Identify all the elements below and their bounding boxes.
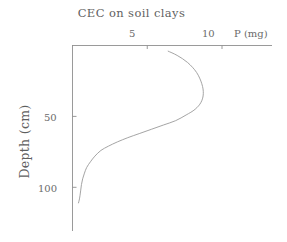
- chart-figure: CEC on soil clays 5 10 P (mg) 50 100 Dep…: [0, 0, 287, 242]
- x-axis-ticks: [147, 46, 222, 50]
- plot-area: [0, 0, 287, 242]
- data-series-line: [78, 51, 203, 203]
- y-axis-ticks: [73, 116, 77, 187]
- axis-lines: [72, 45, 272, 231]
